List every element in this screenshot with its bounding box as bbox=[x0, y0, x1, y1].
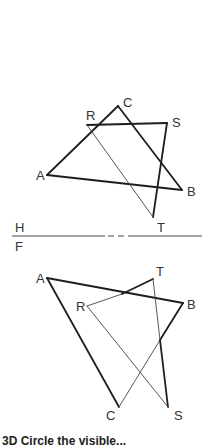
front-edge-AB bbox=[47, 278, 183, 303]
fold-label-F: F bbox=[15, 239, 23, 254]
front-label-C: C bbox=[106, 408, 115, 423]
front-label-T: T bbox=[156, 264, 164, 279]
top-label-C: C bbox=[123, 95, 132, 110]
figure-caption: 3D Circle the visible... bbox=[2, 434, 126, 448]
front-label-R: R bbox=[76, 299, 85, 314]
front-label-A: A bbox=[36, 271, 45, 286]
front-edge-BC-upper bbox=[160, 303, 183, 340]
top-edge-ST bbox=[153, 123, 167, 217]
top-view: A B C R S T bbox=[36, 95, 196, 235]
top-label-S: S bbox=[172, 115, 181, 130]
front-edge-TS-upper bbox=[153, 279, 160, 340]
top-label-B: B bbox=[187, 184, 196, 199]
top-label-T: T bbox=[157, 220, 165, 235]
front-edge-BC-lower bbox=[119, 340, 160, 407]
fold-label-H: H bbox=[15, 220, 24, 235]
front-edge-TS-lower bbox=[160, 340, 168, 407]
front-edge-RS bbox=[87, 306, 168, 407]
front-edge-AC bbox=[47, 278, 119, 407]
top-label-A: A bbox=[36, 168, 45, 183]
front-label-B: B bbox=[187, 297, 196, 312]
front-view: A B C R S T bbox=[36, 264, 196, 423]
top-label-R: R bbox=[86, 108, 95, 123]
front-edge-RT-left bbox=[87, 294, 122, 306]
front-label-S: S bbox=[174, 408, 183, 423]
top-edge-AC bbox=[47, 106, 118, 175]
fold-line: H F bbox=[12, 220, 202, 254]
front-edge-RT-right bbox=[122, 279, 153, 294]
top-edge-AB bbox=[47, 175, 182, 190]
